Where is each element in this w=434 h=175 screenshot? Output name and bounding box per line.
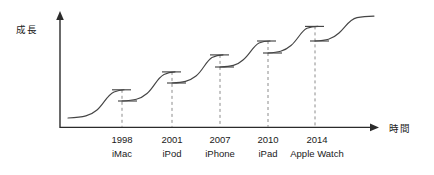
milestone-product-apple-watch: Apple Watch [290, 148, 344, 160]
innovation-s-curve-chart: 成長 時間 1998 iMac 2001 iPod 2007 iPhone 20… [0, 0, 434, 175]
curve-segment-ipad-watch [268, 26, 318, 53]
curve-segment-imac-ipod [122, 72, 175, 101]
x-axis-label: 時間 [389, 121, 410, 135]
x-axis-arrow-icon [370, 124, 379, 132]
milestone-label-2007: 2007 iPhone [205, 134, 235, 160]
curve-segment-ipod-iphone [172, 55, 223, 83]
milestone-label-1998: 1998 iMac [111, 134, 132, 160]
milestone-year-2014: 2014 [290, 134, 344, 146]
curve-segment-pre-imac [68, 90, 124, 118]
milestone-year-2007: 2007 [205, 134, 235, 146]
milestone-year-2001: 2001 [161, 134, 182, 146]
milestone-product-imac: iMac [111, 148, 132, 160]
milestone-year-2010: 2010 [257, 134, 278, 146]
milestone-dashed-lines [122, 26, 315, 127]
milestone-label-2014: 2014 Apple Watch [290, 134, 344, 160]
milestone-product-ipod: iPod [161, 148, 182, 160]
curve-segment-post-watch [315, 16, 374, 41]
milestone-product-ipad: iPad [257, 148, 278, 160]
y-axis-arrow-icon [56, 11, 64, 20]
milestone-label-2010: 2010 iPad [257, 134, 278, 160]
milestone-label-2001: 2001 iPod [161, 134, 182, 160]
milestone-year-1998: 1998 [111, 134, 132, 146]
curve-segment-iphone-ipad [220, 41, 270, 67]
x-axis [60, 124, 379, 132]
y-axis [56, 11, 64, 128]
y-axis-label: 成長 [16, 22, 37, 36]
milestone-product-iphone: iPhone [205, 148, 235, 160]
